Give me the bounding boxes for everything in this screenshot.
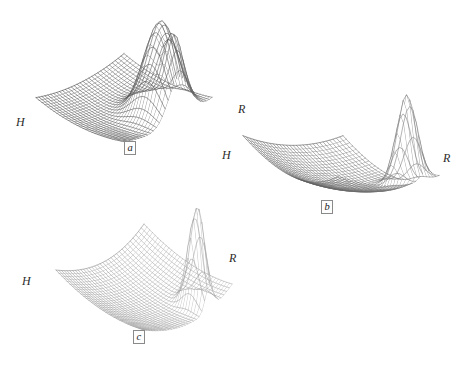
panel-tag-b: b xyxy=(321,200,333,214)
figure-root: H R a H R b H R c xyxy=(0,0,464,370)
panel-tag-a: a xyxy=(124,141,136,155)
surface-plot-panel-a xyxy=(0,0,240,175)
axis-label-r-panel-b: R xyxy=(443,152,451,164)
axis-label-h-panel-b: H xyxy=(222,149,231,161)
surface-plot-panel-b xyxy=(225,55,460,235)
axis-label-h-panel-a: H xyxy=(16,116,25,128)
axis-label-h-panel-c: H xyxy=(22,275,31,287)
panel-tag-c: c xyxy=(133,330,145,344)
surface-mesh-b xyxy=(225,55,460,235)
axis-label-r-panel-c: R xyxy=(229,252,237,264)
surface-mesh-a xyxy=(0,0,240,175)
